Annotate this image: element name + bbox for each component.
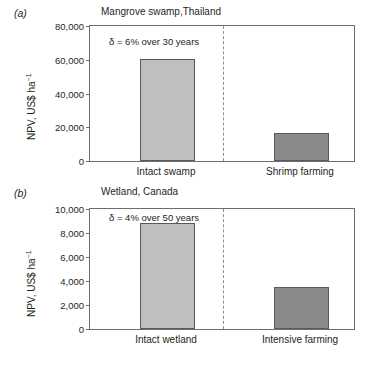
tick-mark xyxy=(86,209,90,210)
panel-a-ytick-label-40000: 40,000 xyxy=(55,88,84,99)
panel-b-ytick-label-6000: 6,000 xyxy=(60,252,84,263)
panel-b-plot-area: δ = 4% over 50 years 10,000 8,000 6,000 … xyxy=(89,208,355,330)
panel-b-title: Wetland, Canada xyxy=(101,186,178,197)
figure-npv-comparison: (a) Mangrove swamp,Thailand NPV, US$ ha−… xyxy=(0,0,372,367)
panel-b-category-label-0: Intact wetland xyxy=(135,334,197,345)
tick-mark xyxy=(86,94,90,95)
panel-a-y-axis-text: NPV, US$ ha xyxy=(26,81,37,140)
tick-mark xyxy=(86,257,90,258)
panel-b-ytick-label-0: 0 xyxy=(79,324,84,335)
panel-a-ytick-label-0: 0 xyxy=(79,156,84,167)
panel-a-ytick-label-20000: 20,000 xyxy=(55,122,84,133)
panel-a-title: Mangrove swamp,Thailand xyxy=(101,6,221,17)
panel-a-y-axis-title: NPV, US$ ha−1 xyxy=(26,73,37,140)
panel-b-y-axis-title: NPV, US$ ha−1 xyxy=(26,250,37,317)
panel-b-letter: (b) xyxy=(14,187,27,199)
panel-a-bar-intact-swamp xyxy=(140,59,195,161)
tick-mark xyxy=(86,281,90,282)
tick-mark xyxy=(86,233,90,234)
panel-a-annotation: δ = 6% over 30 years xyxy=(109,36,199,47)
panel-b-ytick-label-2000: 2,000 xyxy=(60,300,84,311)
tick-mark xyxy=(86,305,90,306)
tick-mark xyxy=(86,329,90,330)
panel-a-y-axis-exponent: −1 xyxy=(25,73,32,81)
panel-a-ytick-label-60000: 60,000 xyxy=(55,54,84,65)
panel-a-plot-area: δ = 6% over 30 years 80,000 60,000 40,00… xyxy=(89,25,355,162)
panel-b-y-axis-text: NPV, US$ ha xyxy=(26,258,37,317)
panel-a: (a) Mangrove swamp,Thailand NPV, US$ ha−… xyxy=(0,0,372,185)
panel-b-bar-intact-wetland xyxy=(140,223,195,329)
panel-a-category-label-0: Intact swamp xyxy=(137,166,196,177)
panel-b-annotation: δ = 4% over 50 years xyxy=(109,212,199,223)
panel-b-y-axis-exponent: −1 xyxy=(25,250,32,258)
panel-b-divider xyxy=(223,209,224,329)
tick-mark xyxy=(86,26,90,27)
panel-a-bar-shrimp-farming xyxy=(274,133,329,161)
panel-b-ytick-label-8000: 8,000 xyxy=(60,228,84,239)
panel-b: (b) Wetland, Canada NPV, US$ ha−1 δ = 4%… xyxy=(0,185,372,367)
tick-mark xyxy=(86,161,90,162)
panel-a-ytick-label-80000: 80,000 xyxy=(55,21,84,32)
panel-b-bar-intensive-farming xyxy=(274,287,329,329)
panel-a-category-label-1: Shrimp farming xyxy=(266,166,334,177)
panel-b-category-label-1: Intensive farming xyxy=(262,334,338,345)
tick-mark xyxy=(86,60,90,61)
panel-b-ytick-label-4000: 4,000 xyxy=(60,276,84,287)
panel-b-ytick-label-10000: 10,000 xyxy=(55,204,84,215)
tick-mark xyxy=(86,127,90,128)
panel-a-letter: (a) xyxy=(14,7,27,19)
panel-a-divider xyxy=(223,26,224,161)
